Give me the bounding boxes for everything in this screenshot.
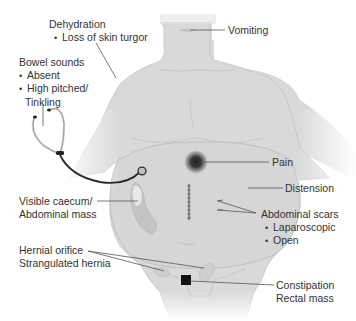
label-dehydration: Dehydration Loss of skin turgor [49, 18, 148, 44]
label-visible-caecum: Visible caecum/ Abdominal mass [19, 195, 97, 220]
label-abdominal-scars: Abdominal scars Laparoscopic Open [261, 208, 339, 248]
label-constipation: Constipation Rectal mass [276, 279, 334, 304]
rectal-mass-marker [181, 275, 191, 285]
bowel-sounds-item: Absent [19, 69, 88, 83]
label-bowel-sounds: Bowel sounds Absent High pitched/ Tinkli… [19, 56, 88, 108]
label-vomiting: Vomiting [228, 24, 268, 37]
scar-item: Laparoscopic [261, 221, 339, 235]
torso-illustration [0, 0, 356, 321]
label-hernial-orifice: Hernial orifice Strangulated hernia [19, 244, 111, 269]
bowel-sounds-item: High pitched/ [19, 82, 88, 96]
leader-dehydration [96, 43, 116, 78]
scar-item: Open [261, 234, 339, 248]
abdominal-examination-diagram: Dehydration Loss of skin turgor Vomiting… [0, 0, 356, 321]
label-distension: Distension [285, 182, 334, 195]
dehydration-item: Loss of skin turgor [49, 31, 148, 45]
label-pain: Pain [272, 156, 293, 169]
bowel-sounds-item: Tinkling [19, 96, 88, 109]
